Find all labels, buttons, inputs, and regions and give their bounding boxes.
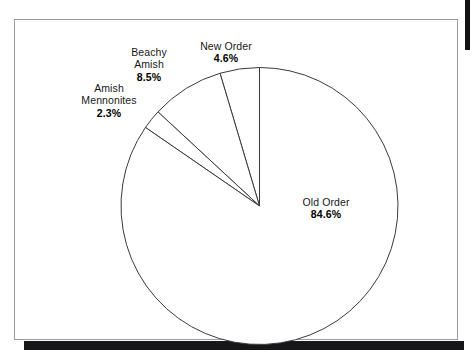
figure-root: New Order 4.6% Beachy Amish 8.5% Amish M… — [0, 0, 473, 356]
pie-label-old-order-value: 84.6% — [283, 208, 369, 220]
pie-label-amish-mennonites-name-2: Mennonites — [68, 94, 150, 106]
pie-label-amish-mennonites: Amish Mennonites 2.3% — [68, 82, 150, 119]
pie-label-old-order: Old Order 84.6% — [283, 196, 369, 221]
pie-label-amish-mennonites-name-1: Amish — [68, 82, 150, 94]
pie-label-beachy-amish-name-2: Amish — [118, 58, 180, 70]
pie-label-beachy-amish: Beachy Amish 8.5% — [118, 46, 180, 83]
pie-label-beachy-amish-name-1: Beachy — [118, 46, 180, 58]
pie-chart — [15, 20, 473, 356]
pie-label-amish-mennonites-value: 2.3% — [68, 107, 150, 119]
pie-label-new-order: New Order 4.6% — [182, 40, 270, 65]
pie-label-new-order-name: New Order — [182, 40, 270, 52]
pie-label-new-order-value: 4.6% — [182, 52, 270, 64]
pie-label-old-order-name: Old Order — [283, 196, 369, 208]
chart-frame: New Order 4.6% Beachy Amish 8.5% Amish M… — [14, 19, 458, 340]
